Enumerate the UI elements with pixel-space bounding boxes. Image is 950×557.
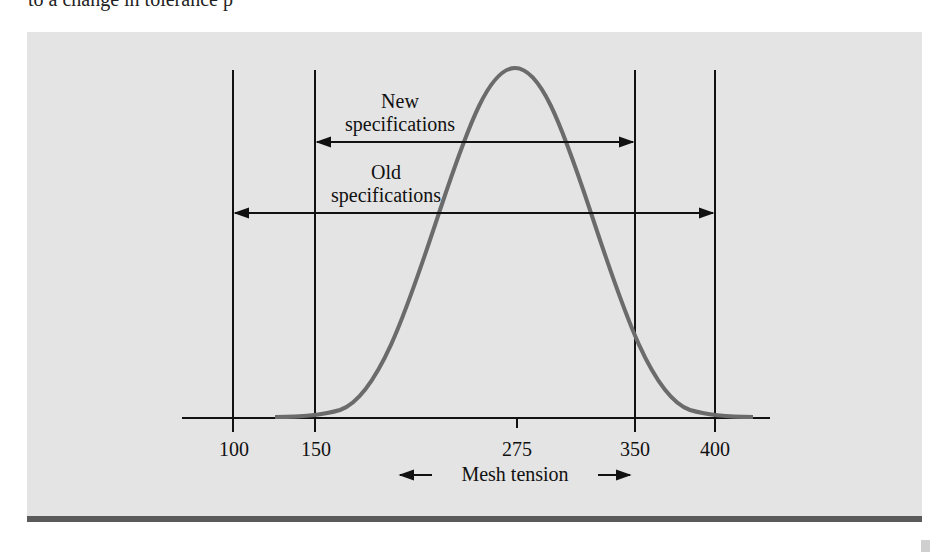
new-spec-label-line2: specifications <box>345 113 455 136</box>
tick-label-100: 100 <box>219 438 249 460</box>
old-spec-label-line1: Old <box>371 161 401 183</box>
tick-label-275: 275 <box>502 438 532 460</box>
chart: New specifications Old specifications 10… <box>0 0 950 557</box>
old-spec-label-line2: specifications <box>331 184 441 207</box>
new-spec-label-line1: New <box>381 90 419 112</box>
x-axis-title: Mesh tension <box>461 463 568 485</box>
tick-label-400: 400 <box>700 438 730 460</box>
tick-label-150: 150 <box>301 438 331 460</box>
tick-label-350: 350 <box>620 438 650 460</box>
